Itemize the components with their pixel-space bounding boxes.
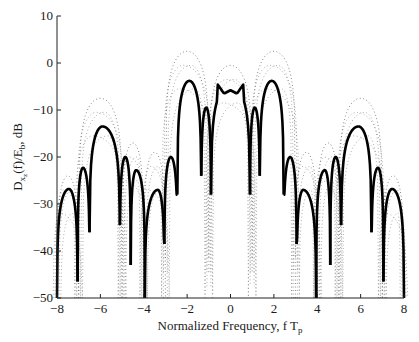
x-tick-label: −4 [137,301,151,316]
dotted-series [53,51,408,298]
x-tick-label: 8 [401,301,408,316]
solid-lobe [120,157,131,265]
solid-lobe [316,170,330,298]
solid-lobe [57,189,78,298]
dotted-lobe [122,143,144,298]
dotted-lobe [77,112,124,298]
y-tick-label: 10 [40,8,53,23]
dotted-lobe [209,65,252,272]
dotted-lobe [61,213,75,298]
dotted-lobe [162,89,213,296]
solid-lobe [371,168,383,282]
solid-lobe [211,85,250,195]
x-tick-label: 2 [271,301,278,316]
dotted-lobe [213,103,249,298]
x-tick-label: −2 [180,301,194,316]
dotted-lobe [146,166,164,298]
x-ticks: −8−6−4−202468 [50,294,407,316]
solid-lobe [164,157,177,244]
y-tick-label: −50 [33,290,53,305]
dotted-lobe [248,89,299,296]
solid-lobe [383,189,404,298]
dotted-lobe [211,79,250,286]
x-tick-label: −6 [93,301,107,316]
dotted-lobe [298,166,316,298]
solid-lobe [90,126,120,232]
solid-lobe [177,81,201,195]
solid-lobe [250,108,260,195]
y-tick-label: 0 [47,55,54,70]
dotted-lobe [337,112,384,298]
y-tick-label: −30 [33,196,53,211]
dotted-lobe [386,213,400,298]
y-tick-label: −20 [33,149,53,164]
y-tick-label: −40 [33,243,53,258]
solid-lobe [131,170,145,298]
x-axis-title: Normalized Frequency, f Tp [158,318,303,335]
solid-lobe [284,157,297,244]
x-tick-label: 6 [357,301,364,316]
solid-series [57,81,404,298]
spectrum-chart: −8−6−4−202468 100−10−20−30−40−50 Normali… [0,0,419,342]
y-tick-label: −10 [33,102,53,117]
solid-lobe [78,168,90,282]
solid-lobe [260,81,284,195]
y-axis-title: Dxz(f)/Eb, dB [10,123,29,191]
axes [57,16,404,298]
x-tick-label: 4 [314,301,321,316]
x-tick-label: 0 [227,301,234,316]
